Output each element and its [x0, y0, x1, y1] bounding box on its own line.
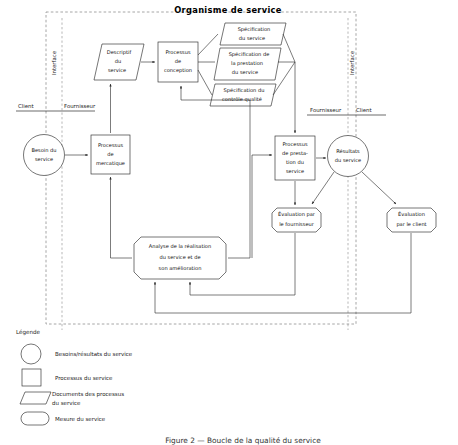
node-resultats-line-1: du service — [335, 157, 361, 163]
diagram-canvas: Organisme de service Interface Interface… — [0, 0, 458, 445]
node-mercatique-line-1: de — [107, 151, 113, 157]
legend-title: Légende — [16, 329, 41, 336]
legend-item-1-label: Processus du service — [55, 375, 113, 381]
node-eval-fournisseur-line-0: Évaluation par — [278, 211, 316, 218]
node-mercatique-line-0: Processus — [98, 142, 124, 148]
node-eval-fournisseur-line-1: le fournisseur — [279, 221, 315, 227]
node-eval-client-line-1: par le client — [396, 221, 426, 228]
right-fournisseur-label: Fournisseur — [310, 107, 342, 113]
legend-item-2-label-0: Documents des processus — [52, 391, 124, 398]
left-client-label: Client — [18, 103, 34, 109]
page-title: Organisme de service — [174, 5, 282, 15]
service-quality-loop-diagram: Organisme de service Interface Interface… — [0, 0, 458, 445]
node-besoin-du-service — [24, 135, 65, 176]
node-eval-client-line-0: Évaluation — [398, 211, 425, 217]
legend-shape-stadium — [21, 412, 49, 425]
legend-item-2-label-1: du service — [52, 400, 81, 406]
node-mercatique-line-2: mercatique — [96, 160, 125, 167]
node-prestation-line-0: Processus — [282, 141, 308, 147]
node-resultats-du-service — [328, 136, 369, 177]
node-conception-line-2: conception — [164, 67, 192, 74]
node-analyse-line-2: son amélioration — [159, 265, 202, 271]
figure-caption: Figure 2 — Boucle de la qualité du servi… — [165, 436, 321, 445]
node-spec-service-line-0: Spécification — [238, 26, 271, 33]
node-descriptif-line-2: service — [108, 67, 126, 73]
legend-shape-circle — [21, 344, 41, 364]
legend-shape-rect — [22, 369, 41, 386]
node-analyse-line-1: du service et de — [159, 254, 200, 260]
node-spec-prestation-line-1: la prestation — [231, 60, 263, 67]
node-prestation-line-2: tion du — [286, 159, 304, 165]
node-prestation-line-3: service — [286, 168, 304, 174]
node-spec-prestation-line-0: Spécification de — [229, 51, 270, 58]
node-prestation-line-1: de presta- — [282, 150, 308, 157]
node-descriptif-line-0: Descriptif — [107, 49, 132, 56]
node-descriptif-line-1: du — [115, 58, 121, 64]
right-interface-label: Interface — [349, 50, 355, 75]
node-spec-prestation-line-2: du service — [232, 69, 258, 75]
left-interface-label: Interface — [51, 50, 57, 75]
legend: Légende Besoins/résultats du service Pro… — [16, 329, 133, 425]
node-besoin-line-0: Besoin du — [31, 147, 56, 153]
node-spec-service-line-1: du service — [239, 35, 265, 41]
legend-item-3-label: Mesure du service — [55, 416, 106, 422]
node-resultats-line-0: Résultats — [336, 148, 360, 154]
node-conception-line-0: Processus — [165, 49, 191, 55]
node-conception-line-1: de — [175, 58, 181, 64]
left-fournisseur-label: Fournisseur — [64, 103, 96, 109]
right-client-label: Client — [356, 107, 372, 113]
node-besoin-line-1: service — [35, 156, 53, 162]
legend-item-0-label: Besoins/résultats du service — [55, 351, 133, 357]
node-spec-controle-line-0: Spécification du — [224, 87, 265, 94]
node-analyse-line-0: Analyse de la réalisation — [149, 243, 211, 250]
legend-shape-parallelogram — [20, 392, 51, 404]
